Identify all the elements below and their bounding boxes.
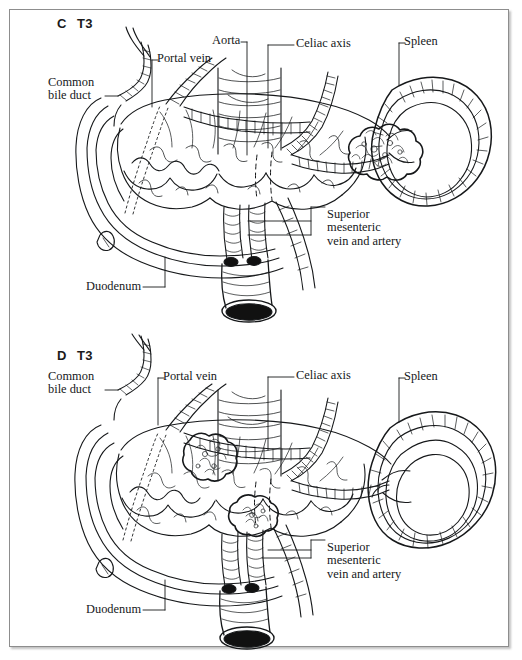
label-smv-sma-c: Superior mesenteric vein and artery	[327, 208, 401, 248]
label-common-bile-duct-c: Common bile duct	[48, 76, 94, 103]
label-celiac-axis-d: Celiac axis	[296, 369, 351, 382]
label-duodenum-c: Duodenum	[86, 280, 141, 293]
panel-d: DT3	[0, 330, 522, 660]
label-portal-vein-d: Portal vein	[163, 370, 217, 383]
label-portal-vein-c: Portal vein	[157, 52, 211, 65]
panel-c-illustration	[0, 0, 522, 330]
label-celiac-axis-c: Celiac axis	[296, 37, 351, 50]
figure-container: CT3	[0, 0, 522, 660]
label-duodenum-d: Duodenum	[86, 603, 141, 616]
label-spleen-d: Spleen	[404, 370, 438, 383]
label-smv-sma-d: Superior mesenteric vein and artery	[327, 541, 401, 581]
label-spleen-c: Spleen	[404, 35, 438, 48]
label-aorta-c: Aorta	[212, 34, 240, 47]
label-common-bile-duct-d: Common bile duct	[48, 370, 94, 397]
panel-c: CT3	[0, 0, 522, 330]
